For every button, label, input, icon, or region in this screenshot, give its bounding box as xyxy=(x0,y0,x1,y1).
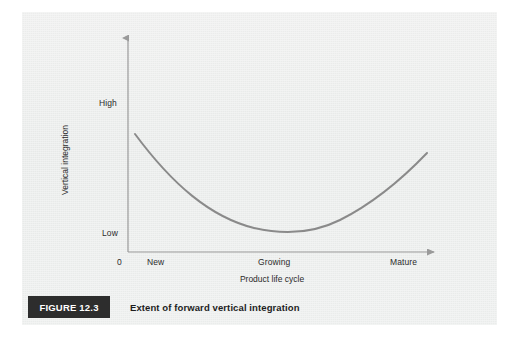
figure-caption-text: Extent of forward vertical integration xyxy=(110,296,491,318)
figure-number-tag: FIGURE 12.3 xyxy=(28,296,110,318)
x-tick-label-new: New xyxy=(147,257,164,267)
figure-container: High Low 0 New Growing Mature Vertical i… xyxy=(0,0,520,351)
chart-svg xyxy=(22,12,497,287)
x-tick-label-origin: 0 xyxy=(117,257,122,267)
data-curve-vertical-integration xyxy=(135,134,427,232)
y-tick-label-high: High xyxy=(99,98,117,108)
x-tick-label-growing: Growing xyxy=(258,257,290,267)
y-axis-title: Vertical integration xyxy=(60,95,70,225)
x-tick-label-mature: Mature xyxy=(390,257,417,267)
page-panel: High Low 0 New Growing Mature Vertical i… xyxy=(22,12,497,325)
chart-plot-area: High Low 0 New Growing Mature Vertical i… xyxy=(22,12,497,287)
y-tick-label-low: Low xyxy=(102,228,118,238)
figure-caption-row: FIGURE 12.3 Extent of forward vertical i… xyxy=(28,296,491,318)
x-axis-title: Product life cycle xyxy=(192,274,352,284)
